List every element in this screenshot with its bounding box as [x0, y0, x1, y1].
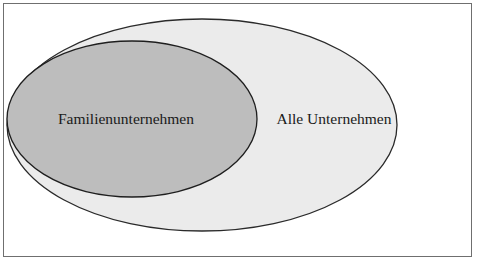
inner-set-label: Familienunternehmen [58, 110, 194, 127]
euler-diagram: Familienunternehmen Alle Unternehmen [0, 0, 477, 264]
outer-set-label: Alle Unternehmen [277, 110, 392, 127]
